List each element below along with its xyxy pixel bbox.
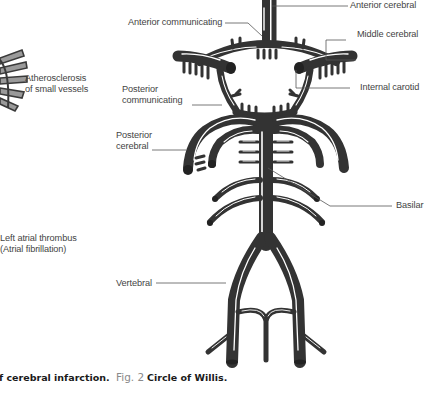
circle-of-willis-diagram: .v { fill: none; stroke: #333; stroke-li… <box>0 0 426 396</box>
label-vertebral: Vertebral <box>116 278 152 289</box>
label-basilar: Basilar <box>396 200 423 211</box>
label-posterior-communicating: Posterior communicating <box>122 84 183 106</box>
label-internal-carotid: Internal carotid <box>360 82 419 93</box>
label-anterior-cerebral: Anterior cerebral <box>350 0 416 11</box>
label-middle-cerebral: Middle cerebral <box>357 29 418 40</box>
label-posterior-cerebral: Posterior cerebral <box>116 130 152 152</box>
right-middle-cerebral-artery <box>294 54 352 78</box>
figure-caption: Fig. 2 Circle of Willis. <box>116 371 227 383</box>
posterior-arch <box>236 104 294 116</box>
vertebral-arteries <box>208 238 324 365</box>
posterior-communicating-arteries <box>220 70 310 110</box>
left-middle-cerebral-artery <box>178 54 236 78</box>
label-anterior-communicating: Anterior communicating <box>128 17 222 28</box>
